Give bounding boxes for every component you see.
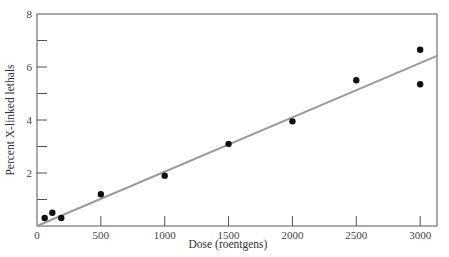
data-point [41, 215, 47, 221]
dose-response-chart: 2468 050010001500200025003000 Dose (roen… [0, 0, 449, 257]
data-point [49, 210, 55, 216]
x-axis-title: Dose (roentgens) [189, 238, 268, 251]
x-tick-label: 2500 [345, 229, 368, 241]
x-tick-label: 0 [34, 229, 40, 241]
fit-line [37, 56, 437, 226]
data-point [289, 118, 295, 124]
x-tick-label: 2000 [281, 229, 304, 241]
data-points [41, 47, 423, 222]
data-point [417, 47, 423, 53]
x-tick-label: 1000 [154, 229, 177, 241]
y-tick-label: 2 [27, 167, 33, 179]
data-point [353, 77, 359, 83]
data-point [417, 81, 423, 87]
y-tick-label: 8 [27, 8, 33, 20]
y-tick-label: 4 [27, 114, 33, 126]
y-tick-label: 6 [27, 61, 33, 73]
y-axis-title: Percent X-linked lethals [4, 64, 16, 176]
plot-border [37, 14, 437, 226]
regression-line [37, 56, 437, 226]
x-tick-label: 500 [93, 229, 110, 241]
plot-frame [37, 14, 437, 226]
data-point [58, 215, 64, 221]
data-point [162, 172, 168, 178]
x-tick-label: 3000 [409, 229, 432, 241]
data-point [225, 141, 231, 147]
data-point [98, 191, 104, 197]
